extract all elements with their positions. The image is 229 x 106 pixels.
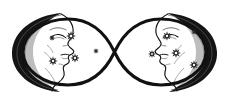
moon-infinity-artwork: [0, 0, 229, 106]
